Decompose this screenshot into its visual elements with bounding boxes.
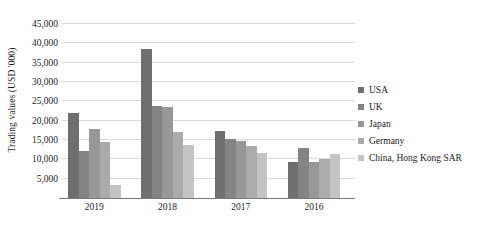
bar xyxy=(225,139,236,198)
legend-swatch-icon xyxy=(358,104,364,110)
bar xyxy=(79,151,90,198)
bar xyxy=(246,146,257,198)
bar-group xyxy=(135,24,208,198)
legend-item[interactable]: USA xyxy=(358,82,476,98)
legend-swatch-icon xyxy=(358,155,364,161)
bar-group xyxy=(62,24,135,198)
bar xyxy=(100,142,111,198)
chart-legend: USAUKJapanGermanyChina, Hong Kong SAR xyxy=(358,82,476,167)
y-axis-tick-label: 40,000 xyxy=(14,38,58,48)
bar-group xyxy=(209,24,282,198)
bar xyxy=(330,154,341,198)
bar xyxy=(319,159,330,198)
bars-layer xyxy=(62,24,355,198)
legend-swatch-icon xyxy=(358,138,364,144)
y-axis-tick-label: 5,000 xyxy=(14,174,58,184)
bar xyxy=(183,145,194,198)
legend-item-label: USA xyxy=(369,85,388,95)
bar xyxy=(152,106,163,198)
x-axis-tick-label: 2016 xyxy=(305,202,324,212)
x-axis-tick-label: 2017 xyxy=(231,202,250,212)
bar xyxy=(162,107,173,198)
bar-group xyxy=(282,24,355,198)
bar xyxy=(215,131,226,198)
bar xyxy=(68,113,79,198)
bar xyxy=(110,185,121,198)
y-axis-tick-label: 35,000 xyxy=(14,58,58,68)
legend-item-label: China, Hong Kong SAR xyxy=(369,153,462,163)
legend-item[interactable]: China, Hong Kong SAR xyxy=(358,150,476,166)
legend-item[interactable]: Germany xyxy=(358,133,476,149)
legend-swatch-icon xyxy=(358,121,364,127)
x-axis-tick-label: 2018 xyxy=(158,202,177,212)
bar xyxy=(236,141,247,198)
legend-item-label: UK xyxy=(369,102,383,112)
x-axis-tick-label: 2019 xyxy=(85,202,104,212)
x-axis-line xyxy=(62,198,355,199)
x-axis-tick-labels: 2019201820172016 xyxy=(62,200,355,216)
legend-item[interactable]: Japan xyxy=(358,116,476,132)
bar xyxy=(257,153,268,198)
bar xyxy=(309,162,320,198)
bar xyxy=(288,162,299,198)
y-axis-tick-label: 25,000 xyxy=(14,96,58,106)
legend-item-label: Japan xyxy=(369,119,391,129)
bar xyxy=(173,132,184,199)
y-axis-tick-label: 45,000 xyxy=(14,19,58,29)
y-axis-tick-label: 20,000 xyxy=(14,116,58,126)
legend-swatch-icon xyxy=(358,87,364,93)
bar-chart: Trading values (USD '000) 5,00010,00015,… xyxy=(0,0,478,232)
legend-item[interactable]: UK xyxy=(358,99,476,115)
bar xyxy=(141,49,152,198)
y-axis-tick-label: 15,000 xyxy=(14,135,58,145)
bar xyxy=(298,148,309,198)
legend-item-label: Germany xyxy=(369,136,404,146)
x-axis-origin-tick xyxy=(59,198,62,199)
y-axis-tick-label: 10,000 xyxy=(14,154,58,164)
y-axis-tick-label: 30,000 xyxy=(14,77,58,87)
y-axis-tick-labels: 5,00010,00015,00020,00025,00030,00035,00… xyxy=(10,24,58,198)
bar xyxy=(89,129,100,198)
